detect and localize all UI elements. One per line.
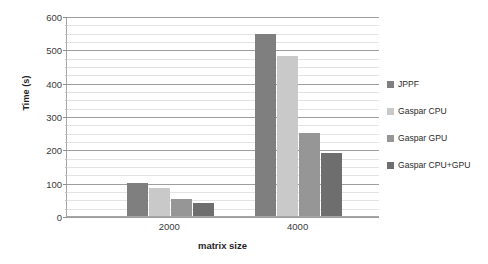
bar <box>193 203 214 216</box>
y-axis-tick-label: 600 <box>18 12 62 23</box>
y-axis-tick-label: 400 <box>18 78 62 89</box>
chart-legend: JPPFGaspar CPUGaspar GPUGaspar CPU+GPU <box>387 74 485 182</box>
x-axis-tick-labels: 20004000 <box>66 221 379 237</box>
gridline-major <box>67 217 379 218</box>
x-axis-tick-label: 4000 <box>287 221 308 232</box>
legend-swatch-icon <box>387 108 394 115</box>
bar-chart: Time (s) 6005004003002001000 20004000 ma… <box>0 0 488 264</box>
bar-group <box>255 17 342 216</box>
y-axis-tick-labels: 6005004003002001000 <box>18 0 62 264</box>
legend-swatch-icon <box>387 81 394 88</box>
legend-item-label: Gaspar CPU+GPU <box>398 161 470 170</box>
legend-item[interactable]: Gaspar GPU <box>387 128 485 148</box>
legend-item-label: JPPF <box>398 80 419 89</box>
bar-group <box>127 17 214 216</box>
bar <box>321 153 342 216</box>
legend-item-label: Gaspar CPU <box>398 107 447 116</box>
legend-item-label: Gaspar GPU <box>398 134 447 143</box>
bar <box>277 56 298 216</box>
y-axis-tick-label: 300 <box>18 112 62 123</box>
y-axis-tick-label: 200 <box>18 145 62 156</box>
plot-area <box>66 17 379 217</box>
x-axis-tick-label: 2000 <box>159 221 180 232</box>
bars-layer <box>67 17 379 216</box>
legend-swatch-icon <box>387 135 394 142</box>
bar <box>255 34 276 216</box>
y-axis-tick-label: 100 <box>18 178 62 189</box>
y-axis-tick-label: 500 <box>18 45 62 56</box>
bar <box>299 133 320 216</box>
legend-swatch-icon <box>387 162 394 169</box>
y-axis-tickmark <box>63 217 67 218</box>
bar <box>171 199 192 216</box>
legend-item[interactable]: Gaspar CPU <box>387 101 485 121</box>
legend-item[interactable]: JPPF <box>387 74 485 94</box>
legend-item[interactable]: Gaspar CPU+GPU <box>387 155 485 175</box>
bar <box>149 188 170 216</box>
y-axis-tick-label: 0 <box>18 212 62 223</box>
x-axis-title: matrix size <box>66 240 379 251</box>
bar <box>127 183 148 216</box>
